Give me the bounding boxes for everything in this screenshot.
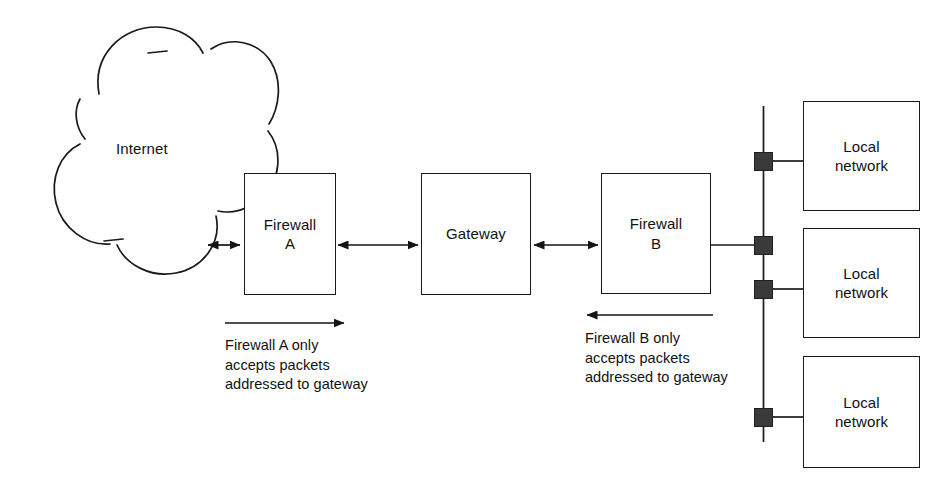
- node-firewall-b[interactable]: Firewall B: [601, 173, 711, 294]
- node-local-network-2-label: Local network: [835, 264, 888, 302]
- node-local-network-1[interactable]: Local network: [803, 101, 920, 211]
- node-firewall-a[interactable]: Firewall A: [244, 173, 336, 295]
- bus-tap-stubs: [772, 161, 803, 417]
- node-firewall-b-label: Firewall B: [630, 214, 682, 252]
- node-local-network-2[interactable]: Local network: [803, 228, 920, 338]
- node-local-network-3-label: Local network: [835, 393, 888, 431]
- bus-tap-3[interactable]: [754, 280, 773, 299]
- bus-tap-2[interactable]: [754, 236, 773, 255]
- caption-firewall-a: Firewall A only accepts packets addresse…: [225, 336, 368, 395]
- network-diagram: Internet Firewall A Gateway Firewall B L…: [0, 0, 952, 499]
- internet-cloud-label: Internet: [116, 140, 168, 157]
- node-gateway[interactable]: Gateway: [421, 173, 531, 295]
- bus-tap-1[interactable]: [754, 152, 773, 171]
- node-local-network-1-label: Local network: [835, 137, 888, 175]
- bus-tap-4[interactable]: [754, 408, 773, 427]
- node-firewall-a-label: Firewall A: [264, 215, 316, 253]
- caption-firewall-b: Firewall B only accepts packets addresse…: [585, 329, 728, 388]
- node-gateway-label: Gateway: [446, 224, 506, 243]
- node-local-network-3[interactable]: Local network: [803, 356, 920, 468]
